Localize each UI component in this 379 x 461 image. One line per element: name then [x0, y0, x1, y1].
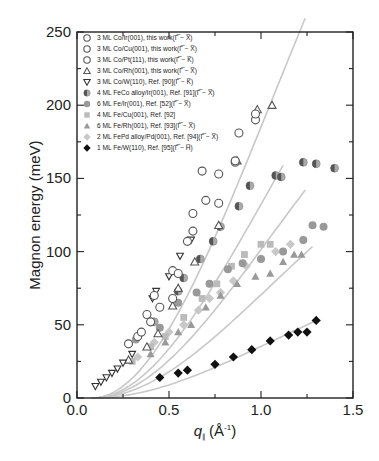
y-tick-label: 100	[46, 243, 71, 260]
plot-frame	[77, 32, 353, 398]
x-axis-title-close: )	[231, 422, 236, 439]
tick-labels: 0.00.51.01.5050100150200250	[46, 23, 363, 418]
legend-label: 3 ML Co/W(110), Ref. [90](Γ̅ − K̅)	[97, 78, 193, 86]
legend-label: 3 ML Co/Ir(001), this work(Γ̅ − X̅)	[97, 34, 193, 42]
fit-curve	[92, 321, 317, 398]
legend-item: 3 ML Co/Cu(001), this work(Γ̅ − X̅)	[84, 45, 197, 53]
fit-curve	[92, 247, 313, 398]
legend-label: 2 ML FePd alloy/Pd(001), Ref. [94](Γ̅ − …	[97, 133, 218, 141]
legend-item: 4 ML FeCo alloy/Ir(001), Ref. [91](Γ̅ − …	[84, 89, 215, 97]
axis-ticks	[77, 32, 353, 398]
legend-label: 3 ML Co/Cu(001), this work(Γ̅ − X̅)	[97, 45, 197, 53]
legend-item: 3 ML Co/Pt(111), this work(Γ̅ − K̅)	[84, 56, 194, 64]
x-tick-label: 0.5	[159, 401, 180, 418]
legend-label: 6 ML Fe/Rh(001), Ref. [93](Γ̅ − X̅)	[97, 122, 195, 130]
legend-label: 3 ML Co/Rh(001), this work(Γ̅ − X̅)	[97, 67, 197, 75]
series-6	[132, 221, 328, 343]
fit-curve	[92, 165, 283, 398]
x-axis-title: q∥(Å-1)	[194, 422, 236, 441]
legend-item: 4 ML Fe/Cu(001), Ref. [92]	[84, 111, 175, 119]
legend-label: 1 ML Fe/W(110), Ref. [95](Γ̅ − H̅)	[97, 144, 193, 152]
legend-item: 3 ML Co/W(110), Ref. [90](Γ̅ − K̅)	[84, 78, 193, 86]
legend-item: 3 ML Co/Rh(001), this work(Γ̅ − X̅)	[84, 67, 197, 75]
legend-label: 4 ML FeCo alloy/Ir(001), Ref. [91](Γ̅ − …	[97, 89, 215, 97]
x-tick-label: 1.0	[251, 401, 272, 418]
legend-item: 2 ML FePd alloy/Pd(001), Ref. [94](Γ̅ − …	[83, 133, 218, 141]
legend-label: 6 ML Fe/Ir(001), Ref. [52](Γ̅ − X̅)	[97, 100, 191, 108]
magnon-dispersion-chart: 0.00.51.01.5050100150200250 Magnon energ…	[0, 0, 379, 461]
y-tick-label: 0	[63, 389, 71, 406]
x-axis-title-sub: ∥	[202, 433, 206, 441]
legend-label: 3 ML Co/Pt(111), this work(Γ̅ − K̅)	[97, 56, 194, 64]
y-tick-label: 50	[54, 316, 71, 333]
series-1	[147, 158, 240, 326]
legend-item: 1 ML Fe/W(110), Ref. [95](Γ̅ − H̅)	[83, 144, 192, 152]
y-tick-label: 200	[46, 96, 71, 113]
legend-item: 6 ML Fe/Ir(001), Ref. [52](Γ̅ − X̅)	[84, 100, 191, 108]
x-axis-title-unit: (Å	[209, 422, 224, 439]
legend-item: 3 ML Co/Ir(001), this work(Γ̅ − X̅)	[84, 34, 193, 42]
svg-text:q∥(Å-1): q∥(Å-1)	[194, 422, 236, 441]
legend: 3 ML Co/Ir(001), this work(Γ̅ − X̅)3 ML …	[83, 34, 218, 152]
legend-item: 6 ML Fe/Rh(001), Ref. [93](Γ̅ − X̅)	[84, 122, 195, 130]
y-axis-title: Magnon energy (meV)	[26, 140, 43, 289]
x-tick-label: 1.5	[343, 401, 364, 418]
legend-label: 4 ML Fe/Cu(001), Ref. [92]	[97, 111, 175, 119]
y-tick-label: 150	[46, 169, 71, 186]
y-tick-label: 250	[46, 23, 71, 40]
